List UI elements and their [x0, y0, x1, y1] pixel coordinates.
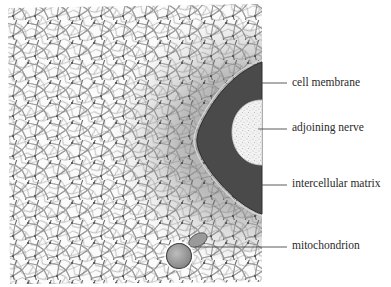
glial-network	[0, 0, 335, 287]
label-adjoining-nerve: adjoining nerve	[292, 122, 364, 134]
label-intercellular-matrix: intercellular matrix	[292, 178, 380, 190]
label-mitochondrion: mitochondrion	[292, 240, 360, 252]
label-cell-membrane: cell membrane	[292, 77, 360, 89]
